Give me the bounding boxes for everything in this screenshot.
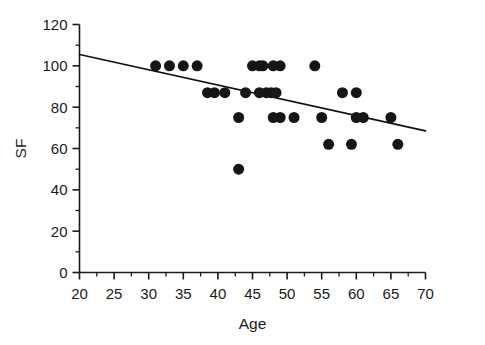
data-point (392, 139, 403, 150)
data-point (192, 60, 203, 71)
y-axis-tick-labels: 020406080100120 (42, 16, 67, 281)
x-tick-label: 70 (417, 285, 434, 302)
data-point (337, 87, 348, 98)
y-tick-label: 60 (51, 140, 68, 157)
y-tick-label: 120 (42, 16, 67, 33)
y-tick-label: 100 (42, 57, 67, 74)
x-tick-label: 50 (279, 285, 296, 302)
x-tick-label: 40 (210, 285, 227, 302)
data-point-group (150, 60, 403, 174)
data-point (219, 87, 230, 98)
x-tick-label: 55 (313, 285, 330, 302)
data-point (233, 164, 244, 175)
x-tick-label: 35 (175, 285, 192, 302)
y-tick-label: 0 (59, 264, 67, 281)
data-point (275, 60, 286, 71)
y-tick-label: 40 (51, 181, 68, 198)
y-axis-title: SF (12, 139, 29, 159)
data-point (289, 112, 300, 123)
data-point (346, 139, 357, 150)
data-point (316, 112, 327, 123)
data-point (323, 139, 334, 150)
y-axis-major-ticks (73, 25, 80, 273)
x-tick-label: 30 (140, 285, 157, 302)
x-axis-title: Age (239, 315, 267, 332)
data-point (358, 112, 369, 123)
y-tick-label: 80 (51, 99, 68, 116)
x-tick-label: 65 (383, 285, 400, 302)
x-tick-label: 45 (244, 285, 261, 302)
data-point (209, 87, 220, 98)
data-point (240, 87, 251, 98)
data-point (351, 87, 362, 98)
data-point (275, 112, 286, 123)
data-point (309, 60, 320, 71)
x-axis-tick-labels: 2025303540455055606570 (71, 285, 434, 302)
y-tick-label: 20 (51, 223, 68, 240)
data-point (271, 87, 282, 98)
data-point (164, 60, 175, 71)
x-tick-label: 60 (348, 285, 365, 302)
x-tick-label: 20 (71, 285, 88, 302)
data-point (150, 60, 161, 71)
data-point (385, 112, 396, 123)
scatter-plot-figure: 020406080100120 2025303540455055606570 A… (0, 0, 485, 345)
x-tick-label: 25 (106, 285, 123, 302)
data-point (233, 112, 244, 123)
data-point (178, 60, 189, 71)
data-point (257, 60, 268, 71)
chart-canvas: 020406080100120 2025303540455055606570 A… (0, 0, 485, 345)
